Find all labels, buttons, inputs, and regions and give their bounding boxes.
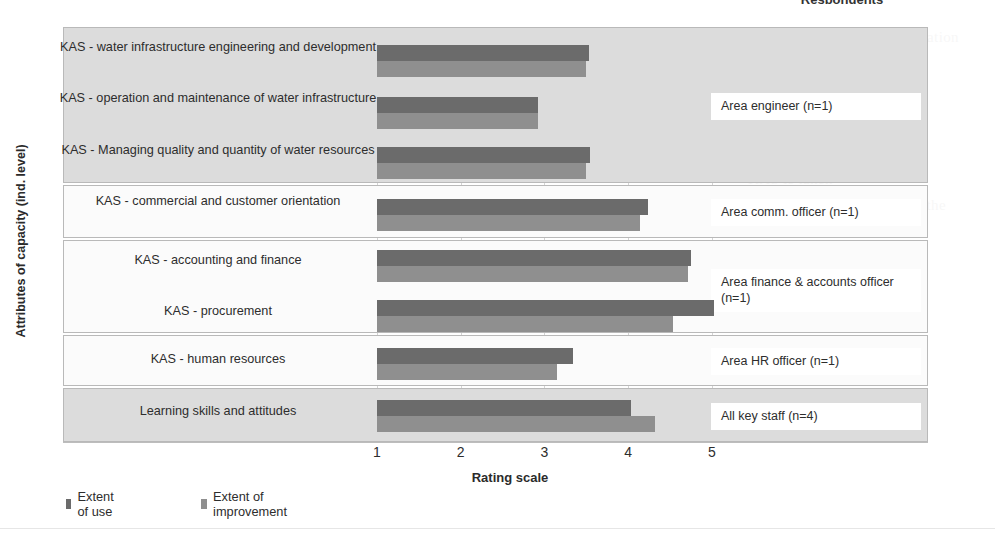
legend-item[interactable]: Extent of use: [66, 489, 118, 519]
legend-label: Extent of improvement: [213, 489, 291, 519]
bar-extent-of-improvement: [377, 163, 586, 179]
bar-extent-of-use: [377, 400, 631, 416]
bar-extent-of-use: [377, 147, 590, 163]
bar-extent-of-improvement: [377, 266, 688, 282]
category-label: KAS - procurement: [53, 302, 383, 321]
bar-extent-of-improvement: [377, 364, 557, 380]
bar-chart: Respondents Attributes of capacity (ind.…: [0, 0, 995, 542]
bar-extent-of-improvement: [377, 61, 586, 77]
x-tick-label-3: 3: [524, 444, 564, 460]
category-label: KAS - water infrastructure engineering a…: [53, 38, 383, 57]
group-label: Area comm. officer (n=1): [711, 199, 921, 226]
x-tick-label-2: 2: [441, 444, 481, 460]
bar-extent-of-use: [377, 250, 691, 266]
group-label: Area engineer (n=1): [711, 93, 921, 120]
group-label: Area finance & accounts officer (n=1): [711, 269, 921, 312]
bar-extent-of-improvement: [377, 316, 673, 332]
bar-extent-of-use: [377, 45, 589, 61]
plot-area: Area engineer (n=1)Area comm. officer (n…: [63, 27, 928, 442]
bar-extent-of-improvement: [377, 113, 538, 129]
x-axis-title: Rating scale: [380, 470, 640, 485]
bar-extent-of-use: [377, 199, 648, 215]
group-label: All key staff (n=4): [711, 403, 921, 430]
x-axis-line: [63, 442, 928, 443]
category-label: KAS - human resources: [53, 350, 383, 369]
bar-extent-of-use: [377, 348, 573, 364]
category-label: KAS - accounting and finance: [53, 251, 383, 270]
y-axis-title: Attributes of capacity (ind. level): [14, 81, 28, 401]
bar-extent-of-use: [377, 300, 714, 316]
bar-extent-of-use: [377, 97, 538, 113]
x-tick-label-1: 1: [357, 444, 397, 460]
category-label: KAS - operation and maintenance of water…: [53, 89, 383, 108]
category-label: KAS - Managing quality and quantity of w…: [53, 141, 383, 160]
x-tick-label-4: 4: [608, 444, 648, 460]
bottom-divider: [0, 528, 995, 529]
x-axis-ticks: 12345: [63, 444, 928, 464]
category-label: Learning skills and attitudes: [53, 402, 383, 421]
x-tick-label-5: 5: [692, 444, 732, 460]
legend-label: Extent of use: [77, 489, 118, 519]
group-label: Area HR officer (n=1): [711, 348, 921, 375]
legend-item[interactable]: Extent of improvement: [201, 489, 291, 519]
legend-swatch-icon: [66, 499, 71, 509]
chart-top-title: Respondents: [742, 0, 942, 4]
category-label: KAS - commercial and customer orientatio…: [53, 192, 383, 211]
bar-extent-of-improvement: [377, 215, 640, 231]
legend-swatch-icon: [201, 499, 207, 509]
bar-extent-of-improvement: [377, 416, 655, 432]
